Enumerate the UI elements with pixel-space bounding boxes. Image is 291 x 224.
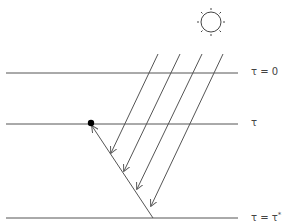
- incoming-ray-4: [151, 54, 223, 206]
- level-label-bottom: τ = τ*: [251, 211, 281, 223]
- incoming-ray-1: [111, 54, 158, 153]
- level-label-bottom-main: τ = τ: [251, 212, 278, 223]
- diffuse-ray: [92, 126, 153, 218]
- level-label-mid: τ: [251, 117, 257, 128]
- radiative-transfer-diagram: [0, 0, 291, 224]
- level-label-top: τ = 0: [251, 66, 278, 77]
- sun-icon: [197, 8, 225, 36]
- level-label-bottom-sup: *: [278, 211, 282, 219]
- incoming-ray-2: [124, 54, 180, 171]
- observation-point: [88, 120, 94, 126]
- incoming-ray-3: [137, 54, 202, 189]
